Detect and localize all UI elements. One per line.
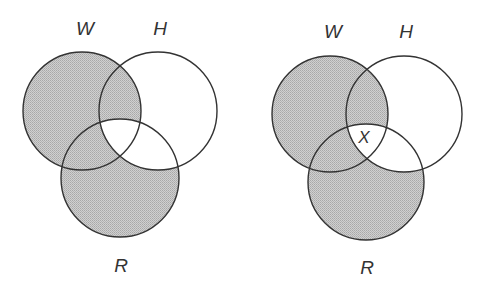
shaded-area <box>23 52 179 237</box>
shaded-area <box>272 56 424 240</box>
venn-left: W H R <box>23 18 217 276</box>
venn-diagrams-canvas: W H R W H R X <box>0 0 482 295</box>
label-r: R <box>114 255 128 276</box>
label-h: H <box>399 21 413 42</box>
venn-right: W H R X <box>272 21 462 278</box>
label-h: H <box>153 18 167 39</box>
marker-x: X <box>357 128 370 147</box>
label-w: W <box>324 21 344 42</box>
label-w: W <box>76 18 96 39</box>
label-r: R <box>360 257 374 278</box>
